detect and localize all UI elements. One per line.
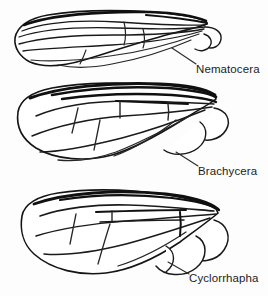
wing-brachycera (18, 83, 229, 166)
wing-cyclorrhapha (21, 190, 228, 274)
nematocera-leader-line (172, 48, 196, 64)
wing-illustration-svg (0, 0, 268, 296)
taxon-label-brachycera: Brachycera (198, 165, 257, 177)
brachycera-leader-line (176, 152, 198, 166)
brachycera-crossvein-dm-cu (168, 104, 169, 120)
taxon-label-nematocera: Nematocera (196, 63, 260, 75)
taxon-label-cyclorrhapha: Cyclorrhapha (189, 272, 259, 284)
wing-venation-figure: Nematocera Brachycera Cyclorrhapha (0, 0, 268, 296)
cyclorrhapha-crossvein-dm-cu (180, 212, 181, 236)
wing-nematocera (15, 11, 221, 67)
nematocera-calypter-lobe (195, 34, 211, 51)
